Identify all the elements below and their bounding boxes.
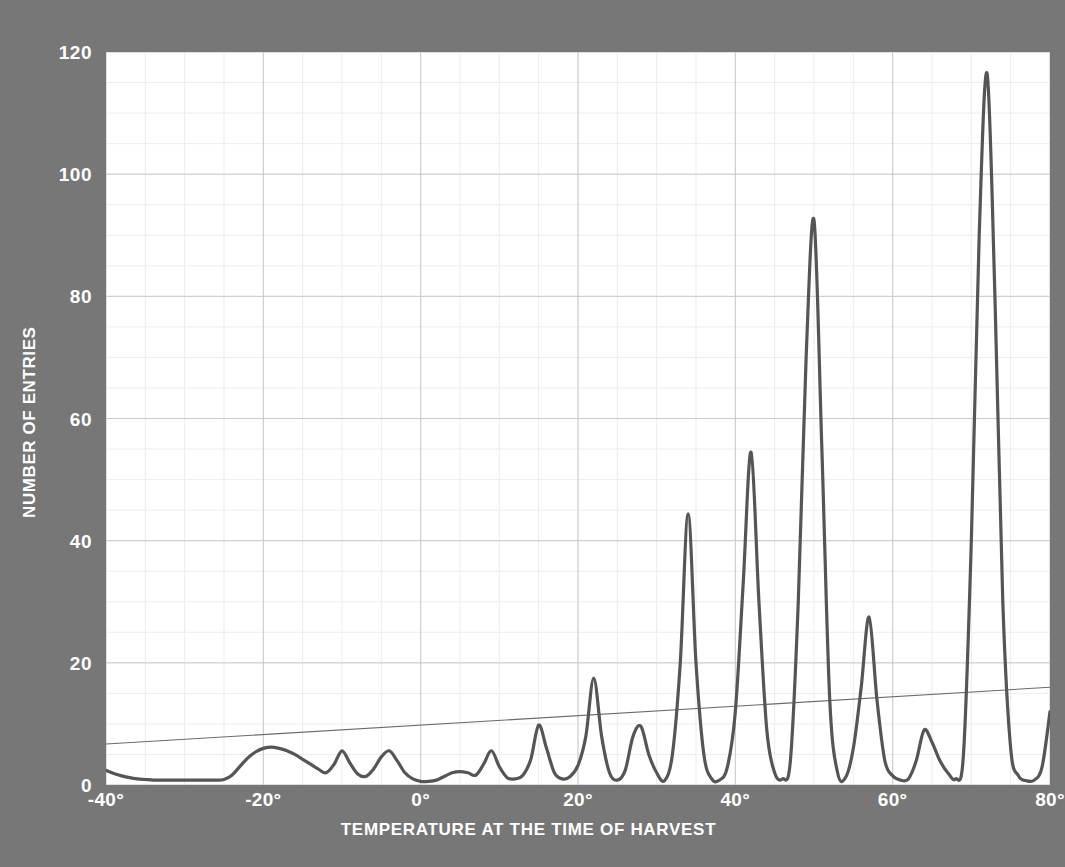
y-tick-label: 60: [70, 409, 92, 428]
x-axis-ticks: -40°-20°0°20°40°60°80°: [0, 789, 1057, 819]
x-tick-label: -40°: [88, 789, 124, 811]
grid-major: [106, 52, 1050, 785]
y-tick-label: 40: [70, 531, 92, 550]
plot-area: [106, 52, 1050, 785]
x-tick-label: 60°: [878, 789, 908, 811]
y-tick-label: 120: [59, 43, 92, 62]
y-axis-title: NUMBER OF ENTRIES: [20, 338, 40, 518]
y-axis-ticks: 020406080100120: [0, 0, 100, 867]
x-tick-label: 80°: [1035, 789, 1065, 811]
plot-svg: [106, 52, 1050, 785]
x-tick-label: 40°: [721, 789, 751, 811]
x-axis-title: TEMPERATURE AT THE TIME OF HARVEST: [0, 820, 1057, 840]
y-tick-label: 20: [70, 653, 92, 672]
y-tick-label: 80: [70, 287, 92, 306]
x-tick-label: 0°: [411, 789, 430, 811]
x-tick-label: -20°: [245, 789, 281, 811]
y-tick-label: 100: [59, 165, 92, 184]
x-tick-label: 20°: [563, 789, 593, 811]
